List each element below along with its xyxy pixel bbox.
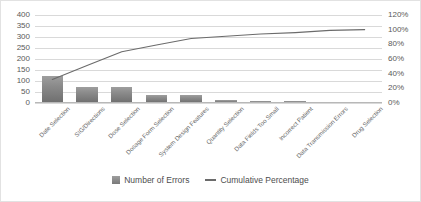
y-axis-left-tick: 50: [21, 88, 30, 96]
y-axis-right: 120%100%80%60%40%20%0%: [384, 1, 420, 103]
y-axis-left-tick: 100: [17, 77, 30, 85]
y-axis-left-tick: 300: [17, 33, 30, 41]
y-axis-left: 400350300250200150100500: [1, 1, 33, 103]
y-axis-left-tick: 350: [17, 22, 30, 30]
x-axis-line: [35, 102, 382, 103]
legend-item-number-of-errors[interactable]: Number of Errors: [112, 176, 189, 185]
x-axis-category-labels: Date SelectionSIG/DirectionsDose Selecti…: [35, 105, 382, 167]
plot-area: [35, 15, 382, 103]
line-series-cumulative-percentage: [35, 15, 382, 103]
y-axis-left-tick: 400: [17, 11, 30, 19]
legend-label: Number of Errors: [124, 176, 189, 185]
y-axis-left-tick: 150: [17, 66, 30, 74]
y-axis-left-tick: 250: [17, 44, 30, 52]
chart-legend: Number of Errors Cumulative Percentage: [1, 171, 420, 189]
bar-swatch-icon: [112, 176, 120, 184]
line-swatch-icon: [205, 179, 216, 182]
y-axis-left-tick: 0: [26, 99, 30, 107]
legend-item-cumulative-percentage[interactable]: Cumulative Percentage: [205, 176, 308, 185]
gridline: [35, 103, 382, 104]
legend-label: Cumulative Percentage: [220, 176, 308, 185]
y-axis-left-tick: 200: [17, 55, 30, 63]
pareto-chart: 400350300250200150100500 120%100%80%60%4…: [0, 0, 421, 202]
